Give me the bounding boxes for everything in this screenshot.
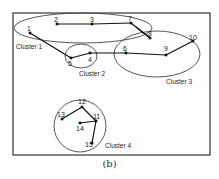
node-marker xyxy=(95,120,98,123)
cluster-label: Cluster 4 xyxy=(105,142,131,149)
edge xyxy=(92,23,131,24)
node-marker xyxy=(130,22,133,25)
node-label: 13 xyxy=(57,111,65,118)
node-label: 10 xyxy=(189,34,197,41)
node-label: 6 xyxy=(123,45,127,52)
node-marker xyxy=(81,106,84,109)
edge xyxy=(62,107,82,119)
node-marker xyxy=(70,57,73,60)
node-label: 11 xyxy=(93,113,100,120)
cluster-diagram: 123456789101112131415 Cluster 1Cluster 2… xyxy=(0,0,219,179)
node-label: 7 xyxy=(128,15,132,22)
figure-caption: (b) xyxy=(0,158,219,169)
node-label: 9 xyxy=(164,45,168,52)
node-marker xyxy=(56,23,59,26)
node-marker xyxy=(165,54,168,57)
node-marker xyxy=(89,52,92,55)
node-marker xyxy=(29,32,32,35)
node-label: 15 xyxy=(85,141,93,148)
node-label: 14 xyxy=(76,125,84,132)
node-label: 2 xyxy=(54,16,58,23)
node-marker xyxy=(91,23,94,26)
node-marker xyxy=(149,37,152,40)
cluster-labels: Cluster 1Cluster 2Cluster 3Cluster 4 xyxy=(16,43,192,149)
node-label: 8 xyxy=(148,30,152,37)
edge xyxy=(126,53,166,55)
node-label: 12 xyxy=(78,98,86,105)
node-marker xyxy=(125,52,128,55)
node-label: 3 xyxy=(90,16,94,23)
cluster-label: Cluster 3 xyxy=(166,78,192,85)
node-label: 4 xyxy=(88,56,92,63)
node-label: 5 xyxy=(68,60,72,67)
edge xyxy=(80,121,96,123)
edge xyxy=(92,121,96,143)
cluster-label: Cluster 2 xyxy=(79,70,105,77)
node-marker xyxy=(61,118,64,121)
node-label: 1 xyxy=(27,25,31,32)
node-marker xyxy=(79,122,82,125)
edge xyxy=(166,41,193,55)
cluster-label: Cluster 1 xyxy=(16,43,42,50)
